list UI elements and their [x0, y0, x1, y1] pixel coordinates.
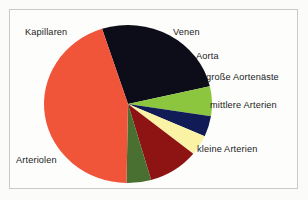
pie-label-kapillaren: Kapillaren — [25, 27, 67, 37]
pie-slice-group — [44, 25, 212, 183]
pie-label-grosse-aortenaeste: große Aortenäste — [206, 72, 279, 82]
pie-label-mittlere-arterien: mittlere Arterien — [210, 100, 277, 110]
pie-chart-figure: Kapillaren Venen Aorta große Aortenäste … — [0, 0, 308, 200]
pie-plot-area: Kapillaren Venen Aorta große Aortenäste … — [0, 0, 308, 200]
pie-label-venen: Venen — [173, 27, 200, 37]
pie-label-arteriolen: Arteriolen — [16, 155, 57, 165]
pie-label-kleine-arterien: kleine Arterien — [197, 144, 257, 154]
pie-label-aorta: Aorta — [196, 51, 219, 61]
